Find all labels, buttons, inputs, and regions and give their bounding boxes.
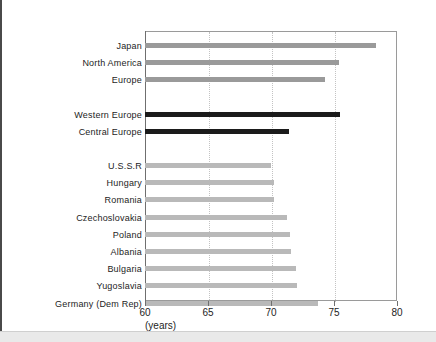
x-tick-label-65: 65 — [202, 307, 213, 318]
x-tick-mark-60 — [145, 301, 146, 306]
x-tick-mark-65 — [208, 301, 209, 306]
x-tick-mark-80 — [397, 301, 398, 306]
bar-hungary — [145, 180, 274, 185]
bar-fill — [145, 232, 290, 237]
category-label-u-s-s-r: U.S.S.R — [0, 161, 142, 171]
bar-fill — [145, 266, 296, 271]
bar-yugoslavia — [145, 283, 297, 288]
bar-fill — [145, 283, 297, 288]
category-label-yugoslavia: Yugoslavia — [0, 281, 142, 291]
category-label-romania: Romania — [0, 195, 142, 205]
bar-fill — [145, 163, 271, 168]
x-axis: 6065707580 — [145, 301, 397, 341]
category-label-germany-dem-rep: Germany (Dem Rep) — [0, 299, 142, 309]
category-label-western-europe: Western Europe — [0, 110, 142, 120]
bar-series — [145, 31, 397, 301]
bar-western-europe — [145, 112, 340, 117]
bar-czechoslovakia — [145, 215, 287, 220]
category-label-albania: Albania — [0, 247, 142, 257]
bar-fill — [145, 60, 339, 65]
bar-fill — [145, 43, 376, 48]
x-tick-label-75: 75 — [328, 307, 339, 318]
category-label-poland: Poland — [0, 230, 142, 240]
bar-u-s-s-r — [145, 163, 271, 168]
category-label-north-america: North America — [0, 58, 142, 68]
bar-fill — [145, 215, 287, 220]
bar-fill — [145, 129, 289, 134]
bar-central-europe — [145, 129, 289, 134]
bar-fill — [145, 180, 274, 185]
bar-europe — [145, 77, 325, 82]
category-label-czechoslovakia: Czechoslovakia — [0, 213, 142, 223]
bar-fill — [145, 197, 274, 202]
category-label-europe: Europe — [0, 75, 142, 85]
x-tick-label-80: 80 — [391, 307, 402, 318]
bar-north-america — [145, 60, 339, 65]
category-axis-labels: JapanNorth AmericaEuropeWestern EuropeCe… — [0, 31, 142, 301]
category-label-japan: Japan — [0, 41, 142, 51]
x-tick-mark-75 — [334, 301, 335, 306]
category-label-hungary: Hungary — [0, 178, 142, 188]
x-tick-label-60: 60 — [139, 307, 150, 318]
bar-fill — [145, 112, 340, 117]
x-axis-unit-label: (years) — [145, 320, 176, 331]
bar-fill — [145, 249, 291, 254]
bar-romania — [145, 197, 274, 202]
category-label-bulgaria: Bulgaria — [0, 264, 142, 274]
x-tick-mark-70 — [271, 301, 272, 306]
x-tick-label-70: 70 — [265, 307, 276, 318]
bar-bulgaria — [145, 266, 296, 271]
bar-poland — [145, 232, 290, 237]
bar-albania — [145, 249, 291, 254]
bar-fill — [145, 77, 325, 82]
category-label-central-europe: Central Europe — [0, 127, 142, 137]
bar-japan — [145, 43, 376, 48]
